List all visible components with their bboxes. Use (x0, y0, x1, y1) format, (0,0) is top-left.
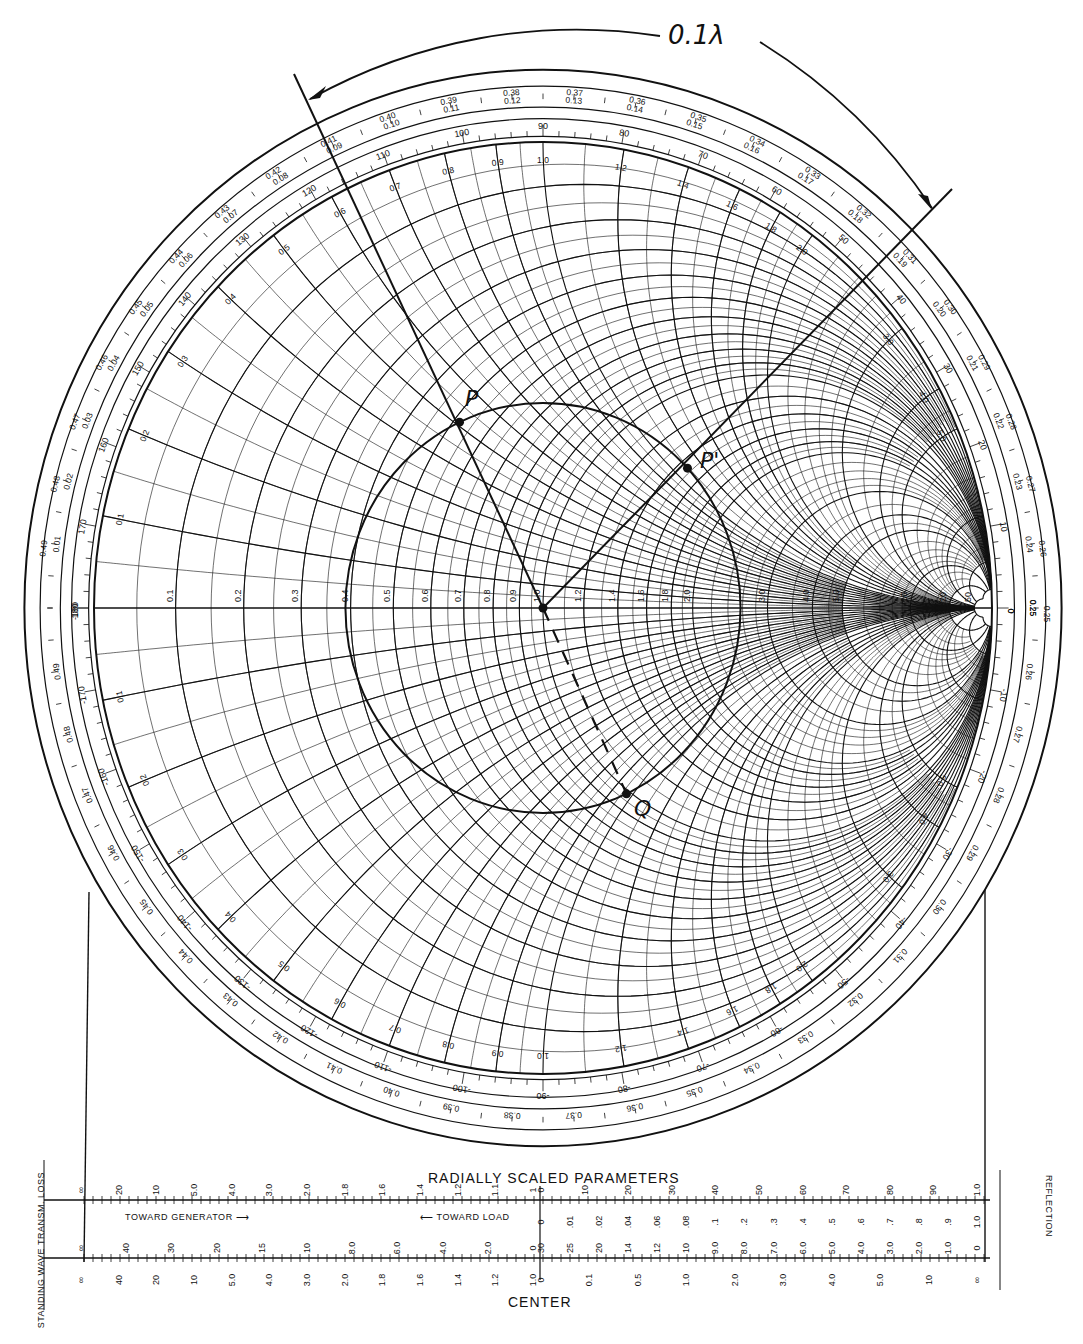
angle-tick (327, 1024, 330, 1029)
angle-tick (901, 314, 905, 317)
wavelength-tick (420, 110, 421, 115)
angle-tick (797, 212, 800, 217)
wavelength-tick (204, 233, 208, 237)
wavelength-tick (1009, 449, 1014, 451)
reactance-tick-label: 0.5 (276, 242, 292, 257)
angle-tick (770, 1016, 776, 1026)
angle-tick (823, 980, 826, 984)
wavelength-tick (304, 1054, 307, 1059)
center-label: CENTER (508, 1294, 572, 1310)
angle-tick (784, 1008, 787, 1013)
row3-left-label: 40 (121, 1243, 131, 1253)
reactance-tick-label: 0.8 (441, 165, 455, 177)
row3-right-label: 30 (536, 1243, 546, 1253)
row3-left-label: 6.0 (392, 1242, 402, 1255)
row2-right-label: .02 (594, 1216, 604, 1229)
wavelength-tick (1009, 765, 1014, 767)
angle-tick (495, 1077, 496, 1083)
row2-right-label: .2 (739, 1218, 749, 1226)
row3-right-label: 7.0 (769, 1242, 779, 1255)
wavelength-tick (481, 98, 482, 104)
angle-label: 70 (697, 149, 710, 162)
row3-left-label: 10 (302, 1243, 312, 1253)
row4-left-label: 1.4 (453, 1274, 463, 1287)
angle-tick (310, 1016, 316, 1026)
row4-right-label: 0.5 (633, 1274, 643, 1287)
angle-label: 150 (130, 359, 146, 377)
angle-tick (728, 172, 730, 177)
angle-tick (432, 145, 433, 150)
wavelength-tick (1025, 512, 1030, 513)
angle-label: -80 (617, 1083, 632, 1095)
reactance-arc (303, 214, 844, 594)
angle-tick (590, 1077, 591, 1083)
angle-tick (130, 815, 135, 817)
row1-right-label: 80 (885, 1185, 895, 1195)
angle-tick (130, 399, 135, 401)
angle-tick (901, 898, 905, 901)
transm-loss-header: TRANSM. LOSS (36, 1172, 46, 1245)
angle-tick (975, 461, 980, 463)
angle-tick (951, 399, 956, 401)
reactance-arc (711, 189, 852, 569)
angle-tick (137, 829, 142, 832)
reactance-tick-label: 0.7 (388, 1022, 403, 1036)
resistance-tick-label: 10 (899, 592, 909, 602)
reactance-arc (711, 189, 974, 607)
wavelength-load-label: 0.38 (503, 87, 520, 98)
rotation-arc-right (760, 42, 932, 208)
row3-right-label: 3.0 (885, 1242, 895, 1255)
angle-tick (117, 785, 122, 787)
row4-right-label: 3.0 (778, 1274, 788, 1287)
angle-label: -140 (175, 913, 194, 933)
angle-tick (153, 858, 158, 861)
angle-tick (606, 1075, 607, 1081)
wavelength-tick (56, 703, 61, 704)
row1-left-label: ∞ (76, 1187, 86, 1193)
row4-right-label: 1.0 (681, 1274, 691, 1287)
angle-tick (980, 738, 985, 740)
reactance-arc (444, 153, 845, 587)
angle-label: -100 (452, 1082, 471, 1095)
row2-right-label: .8 (914, 1218, 924, 1226)
angle-tick (286, 212, 289, 217)
wavelength-tick (94, 825, 99, 827)
resistance-tick-label: 1.4 (607, 589, 617, 602)
angle-tick (299, 1008, 302, 1013)
wavelength-generator-label: 0.01 (51, 535, 63, 553)
row3-right-label: 8.0 (739, 1242, 749, 1255)
angle-tick (97, 722, 102, 723)
angle-tick (171, 885, 175, 888)
angle-tick (371, 1045, 373, 1050)
wavelength-tick (879, 979, 883, 983)
angle-tick (987, 509, 992, 510)
resistance-tick-label: 0.8 (482, 589, 492, 602)
angle-tick (847, 253, 851, 257)
reactance-tick-label: 1.4 (676, 1025, 691, 1038)
angle-tick (235, 253, 239, 257)
wavelength-tick (665, 1101, 666, 1106)
angle-tick (810, 222, 813, 227)
angle-tick (653, 145, 654, 150)
angle-tick (327, 187, 330, 192)
row1-left-label: 5.0 (189, 1184, 199, 1197)
wavelength-generator-label: 0.46 (105, 843, 122, 863)
angle-label: 40 (894, 292, 908, 306)
row2-right-label: .04 (623, 1216, 633, 1229)
angle-label: 30 (941, 362, 955, 376)
angle-tick (106, 461, 111, 463)
reactance-tick-label: 0.1 (114, 690, 126, 704)
reactance-tick-label: 0.1 (114, 512, 126, 526)
row4-right-label: 5.0 (875, 1274, 885, 1287)
angle-tick (224, 265, 228, 269)
reactance-tick-label: 1.2 (614, 1043, 628, 1055)
angle-tick (260, 232, 263, 236)
reactance-arc (218, 608, 975, 929)
angle-label: -130 (232, 973, 252, 992)
wavelength-tick (56, 512, 61, 513)
reactance-tick-label: 0.3 (175, 353, 190, 369)
reactance-arc (711, 647, 852, 1027)
angle-tick (153, 355, 158, 358)
row3-right-label: 12 (652, 1243, 662, 1253)
row2-right-label: 0 (536, 1219, 546, 1224)
